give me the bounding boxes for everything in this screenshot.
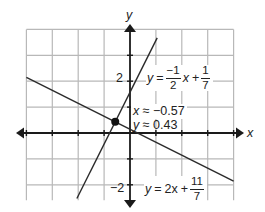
equation-label-top: y = −1 2 x + 1 7: [146, 65, 213, 91]
eq-top-lhs: y: [147, 71, 153, 85]
eq-top-plus: +: [192, 71, 199, 85]
intersect-x-var: x: [133, 104, 139, 118]
x-axis-label: x: [247, 127, 253, 140]
eq-top-frac1-num: −1: [166, 65, 181, 79]
intersect-y-value: ≈ 0.43: [143, 118, 178, 132]
eq-bottom-lhs: y: [145, 182, 151, 196]
intersect-y-var: y: [133, 118, 139, 132]
eq-bottom-fraction: 11 7: [190, 176, 204, 202]
eq-bottom-plus: +: [181, 182, 188, 196]
eq-bottom-frac-num: 11: [190, 176, 204, 190]
eq-top-fraction-2: 1 7: [201, 65, 209, 91]
eq-bottom-coef: 2x: [165, 182, 178, 196]
axes: [16, 24, 244, 208]
eq-bottom-frac-den: 7: [194, 190, 200, 203]
intersection-dot-icon: [111, 118, 119, 126]
eq-bottom-equals: =: [154, 182, 161, 196]
x-axis-left-arrow-icon: [16, 128, 24, 139]
y-tick-label-neg2: −2: [110, 182, 124, 195]
eq-top-frac1-den: 2: [170, 79, 176, 92]
eq-top-frac2-num: 1: [201, 65, 209, 79]
x-axis-right-arrow-icon: [236, 128, 244, 139]
eq-top-var: x: [183, 71, 189, 85]
y-tick-label-2: 2: [116, 72, 123, 85]
intersection-point: [111, 118, 119, 126]
intersection-y-annotation: y ≈ 0.43: [131, 118, 179, 133]
y-axis-label: y: [126, 9, 132, 22]
intersection-x-annotation: x ≈ −0.57: [131, 104, 187, 119]
y-axis-up-arrow-icon: [124, 24, 136, 32]
eq-top-equals: =: [156, 71, 163, 85]
y-axis-down-arrow-icon: [124, 200, 136, 208]
eq-top-frac2-den: 7: [202, 79, 208, 92]
intersect-x-value: ≈ −0.57: [143, 104, 185, 118]
equation-label-bottom: y = 2x + 11 7: [144, 176, 207, 202]
eq-top-fraction-1: −1 2: [166, 65, 181, 91]
